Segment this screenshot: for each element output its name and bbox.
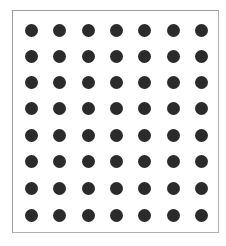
grid-dot [138, 50, 151, 63]
grid-dot [138, 129, 151, 142]
grid-dot [110, 102, 123, 115]
grid-dot [25, 102, 38, 115]
grid-dot [195, 209, 208, 222]
grid-dot [53, 209, 66, 222]
grid-dot [195, 182, 208, 195]
grid-dot [167, 182, 180, 195]
grid-dot [53, 102, 66, 115]
grid-dot [138, 24, 151, 37]
grid-dot [110, 50, 123, 63]
grid-dot [25, 24, 38, 37]
grid-dot [53, 24, 66, 37]
grid-dot [167, 209, 180, 222]
grid-dot [195, 76, 208, 89]
grid-dot [110, 209, 123, 222]
grid-dot [53, 50, 66, 63]
grid-dot [25, 50, 38, 63]
grid-dot [110, 182, 123, 195]
grid-dot [138, 182, 151, 195]
grid-dot [138, 102, 151, 115]
grid-dot [167, 155, 180, 168]
grid-dot [82, 50, 95, 63]
grid-dot [25, 209, 38, 222]
grid-dot [195, 155, 208, 168]
grid-dot [82, 129, 95, 142]
grid-dot [82, 102, 95, 115]
grid-dot [82, 209, 95, 222]
grid-dot [25, 76, 38, 89]
grid-dot [138, 209, 151, 222]
grid-dot [195, 102, 208, 115]
grid-dot [82, 24, 95, 37]
grid-dot [138, 76, 151, 89]
grid-dot [110, 129, 123, 142]
grid-dot [110, 24, 123, 37]
grid-dot [25, 182, 38, 195]
grid-dot [195, 129, 208, 142]
grid-dot [110, 76, 123, 89]
grid-dot [167, 76, 180, 89]
grid-dot [82, 76, 95, 89]
grid-dot [110, 155, 123, 168]
grid-dot [167, 102, 180, 115]
grid-dot [82, 182, 95, 195]
grid-dot [167, 50, 180, 63]
dot-grid-frame [12, 10, 219, 233]
grid-dot [195, 24, 208, 37]
grid-dot [167, 129, 180, 142]
grid-dot [53, 129, 66, 142]
grid-dot [53, 76, 66, 89]
grid-dot [25, 155, 38, 168]
grid-dot [138, 155, 151, 168]
grid-dot [195, 50, 208, 63]
grid-dot [53, 155, 66, 168]
grid-dot [167, 24, 180, 37]
grid-dot [25, 129, 38, 142]
grid-dot [53, 182, 66, 195]
grid-dot [82, 155, 95, 168]
